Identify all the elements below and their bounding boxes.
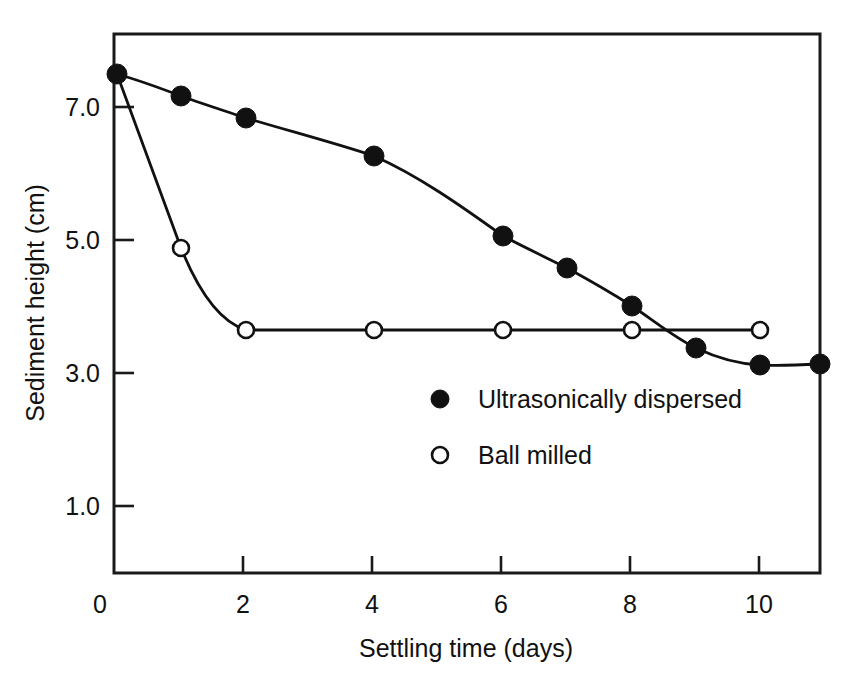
y-tick-label-5: 5.0 [65, 226, 100, 254]
x-tick-label-8: 8 [623, 590, 637, 618]
x-tick-label-0: 0 [93, 590, 107, 618]
y-tick-label-7: 7.0 [65, 93, 100, 121]
x-tick-label-4: 4 [365, 590, 379, 618]
data-point [810, 354, 830, 374]
x-tick-label-10: 10 [745, 590, 773, 618]
data-point [493, 226, 513, 246]
x-tick-label-2: 2 [236, 590, 250, 618]
data-point [752, 322, 768, 338]
data-point [364, 146, 384, 166]
data-point [622, 296, 642, 316]
y-tick-label-3: 3.0 [65, 359, 100, 387]
y-tick-label-1: 1.0 [65, 492, 100, 520]
y-tick-marks [114, 107, 134, 506]
data-point [366, 322, 382, 338]
data-point [686, 338, 706, 358]
data-point [495, 322, 511, 338]
legend-label-ultrasonically-dispersed: Ultrasonically dispersed [478, 385, 742, 413]
data-point [624, 322, 640, 338]
x-axis-title: Settling time (days) [359, 634, 573, 662]
data-point [236, 108, 256, 128]
chart-figure: 7.0 5.0 3.0 1.0 0 2 4 6 8 10 Settling ti… [0, 0, 857, 675]
legend-label-ball-milled: Ball milled [478, 441, 592, 469]
sediment-height-line-chart: 7.0 5.0 3.0 1.0 0 2 4 6 8 10 Settling ti… [0, 0, 857, 675]
x-tick-marks [243, 556, 759, 573]
legend-marker-filled-circle-icon [431, 390, 449, 408]
series-line-ball-milled [117, 74, 760, 330]
x-tick-label-6: 6 [494, 590, 508, 618]
data-point [750, 355, 770, 375]
data-point [238, 322, 254, 338]
plot-frame [114, 34, 820, 573]
chart-legend: Ultrasonically dispersed Ball milled [431, 385, 742, 469]
data-point [557, 258, 577, 278]
y-axis-title: Sediment height (cm) [21, 184, 49, 422]
series-markers-ball-milled [173, 240, 768, 338]
data-point [173, 240, 189, 256]
series-markers-ultrasonically-dispersed [107, 64, 830, 375]
series-line-ultrasonically-dispersed [117, 74, 820, 365]
legend-marker-open-circle-icon [432, 447, 448, 463]
data-point [171, 86, 191, 106]
data-point [107, 64, 127, 84]
